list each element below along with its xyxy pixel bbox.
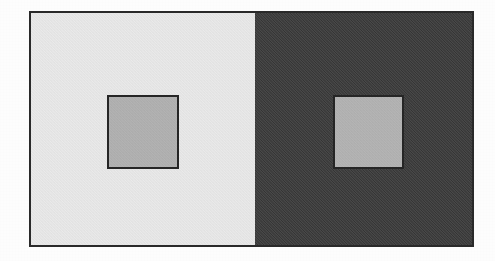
outer-frame — [29, 11, 474, 247]
left-gray-test-patch — [107, 95, 179, 169]
figure-canvas: Simultaneous contrast demonstration Two … — [0, 0, 495, 261]
left-panel-light-surround — [31, 13, 255, 245]
right-gray-test-patch — [333, 95, 404, 169]
right-panel-dark-surround — [255, 13, 472, 245]
halftone-texture-right-patch — [335, 97, 402, 167]
halftone-texture-left-patch — [109, 97, 177, 167]
